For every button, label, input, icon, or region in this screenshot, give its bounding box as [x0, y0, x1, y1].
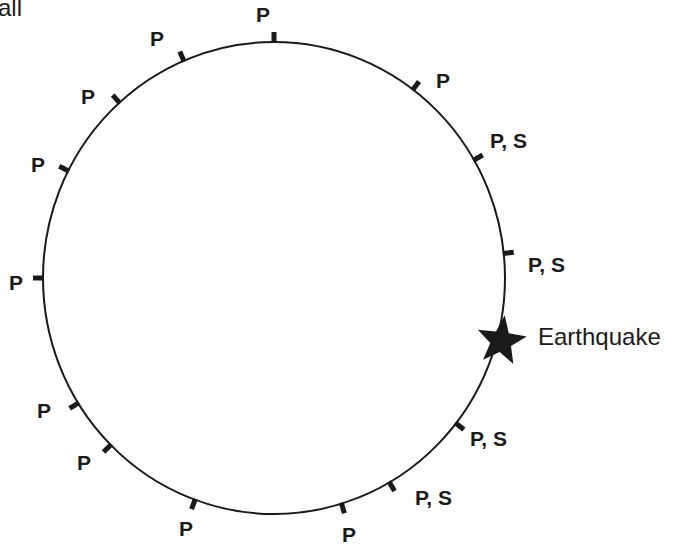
station-tick-6 — [341, 503, 344, 514]
station-label-9: P — [37, 399, 51, 422]
station-labels: PPP, SP, SP, SP, SPPPPPPPP — [9, 3, 565, 546]
station-tick-7 — [192, 499, 196, 509]
station-tick-1 — [412, 82, 419, 91]
station-tick-5 — [389, 482, 395, 492]
station-tick-4 — [455, 423, 464, 430]
station-label-4: P, S — [470, 427, 507, 450]
station-label-5: P, S — [415, 486, 452, 509]
station-label-11: P — [31, 153, 45, 176]
earth-seismic-diagram: PPP, SP, SP, SP, SPPPPPPPP Earthquake — [0, 0, 690, 548]
station-label-3: P, S — [528, 253, 565, 276]
station-label-13: P — [150, 27, 164, 50]
station-label-6: P — [342, 523, 356, 546]
station-tick-8 — [104, 444, 112, 452]
earthquake-label: Earthquake — [538, 323, 661, 350]
station-label-10: P — [9, 271, 23, 294]
star-icon — [478, 315, 527, 364]
station-tick-13 — [180, 52, 184, 62]
station-tick-11 — [59, 166, 69, 171]
station-label-7: P — [179, 517, 193, 540]
station-label-12: P — [81, 85, 95, 108]
station-tick-2 — [473, 155, 483, 161]
station-tick-3 — [503, 252, 514, 253]
station-label-8: P — [77, 451, 91, 474]
earth-circle — [43, 42, 505, 514]
station-label-1: P — [436, 69, 450, 92]
station-tick-9 — [70, 403, 79, 409]
station-label-2: P, S — [490, 129, 527, 152]
station-tick-12 — [113, 95, 120, 103]
station-label-0: P — [256, 3, 270, 26]
earthquake-marker: Earthquake — [478, 315, 661, 364]
